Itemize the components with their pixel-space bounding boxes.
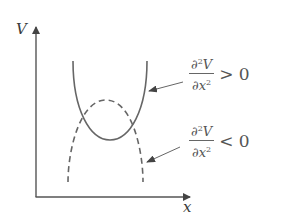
lower-pointer-arrow	[147, 147, 180, 162]
upper-annotation: ∂2V ∂x2 > 0	[189, 54, 250, 93]
upper-pointer-arrow	[149, 82, 183, 91]
upper-relation: > 0	[219, 64, 249, 84]
lower-annotation: ∂2V ∂x2 < 0	[189, 121, 250, 160]
diagram-canvas	[0, 0, 286, 218]
y-axis-label: V	[16, 20, 27, 38]
unstable-curve-dashed	[68, 100, 143, 182]
x-axis-label: x	[183, 198, 191, 216]
lower-relation: < 0	[219, 131, 249, 151]
